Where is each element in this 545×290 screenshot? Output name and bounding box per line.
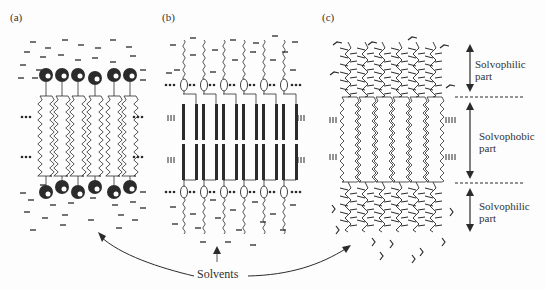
polar-head-icon: [281, 186, 288, 198]
solvents-curve-left: [100, 236, 194, 276]
branch: [367, 69, 374, 70]
branch: [340, 48, 348, 50]
branch: [384, 85, 391, 86]
branch: [384, 193, 391, 194]
solvophilic-chain: [223, 40, 226, 80]
branch: [340, 72, 348, 74]
branch: [350, 209, 357, 210]
branch: [418, 69, 425, 70]
ellipsis-dots: [213, 191, 216, 194]
free-solvent-fragment: [446, 85, 455, 88]
rigid-rod: [295, 104, 298, 140]
branch: [401, 93, 408, 94]
ellipsis-dots: [141, 116, 144, 119]
rigid-rod: [195, 144, 198, 180]
branch: [435, 93, 442, 94]
branch: [367, 85, 374, 86]
branch: [367, 93, 374, 94]
branch: [401, 85, 408, 86]
ellipsis-dots: [291, 191, 294, 194]
ellipsis-dots: [173, 191, 176, 194]
branch: [374, 188, 382, 190]
branch: [435, 85, 442, 86]
branch: [408, 48, 416, 50]
branch: [401, 61, 408, 62]
head-highlight: [130, 187, 135, 192]
branch: [384, 77, 391, 78]
rigid-rod: [215, 144, 218, 180]
branch: [435, 53, 442, 54]
free-solvent-fragment: [408, 37, 417, 40]
branch: [401, 53, 408, 54]
polar-head-icon: [241, 79, 248, 91]
rigid-rod: [202, 144, 205, 180]
polar-head-icon: [261, 186, 268, 198]
ellipsis-dots: [295, 84, 298, 87]
arrow-head-icon: [466, 102, 474, 110]
ellipsis-dots: [29, 116, 32, 119]
head-highlight: [62, 74, 67, 79]
free-solvent-fragment: [380, 252, 383, 260]
head-highlight: [46, 74, 51, 79]
ellipsis-dots: [21, 156, 24, 159]
free-solvent-fragment: [368, 42, 377, 45]
branch: [350, 193, 357, 194]
solvophilic-chain: [183, 40, 186, 80]
solvophilic-chain: [283, 198, 286, 234]
polar-head-icon: [181, 186, 188, 198]
head-group-icon: [71, 185, 85, 199]
solvophilic-chain: [203, 40, 206, 80]
ellipsis-dots: [269, 191, 272, 194]
polar-head-icon: [241, 186, 248, 198]
branch: [391, 212, 399, 214]
ellipsis-dots: [137, 156, 140, 159]
branch: [384, 69, 391, 70]
ellipsis-dots: [133, 116, 136, 119]
rigid-rod: [242, 104, 245, 140]
polar-head-icon: [261, 79, 268, 91]
ellipsis-dots: [133, 156, 136, 159]
branch: [384, 217, 391, 218]
free-solvent-fragment: [390, 240, 393, 248]
rigid-rod: [195, 104, 198, 140]
polar-head-icon: [221, 186, 228, 198]
alkyl-chain: [87, 96, 91, 176]
ellipsis-dots: [209, 84, 212, 87]
solvophilic-chain: [203, 198, 206, 234]
branch: [401, 201, 408, 202]
branch: [367, 217, 374, 218]
branch: [401, 77, 408, 78]
ellipsis-dots: [299, 84, 302, 87]
ellipsis-dots: [273, 191, 276, 194]
ellipsis-dots: [253, 84, 256, 87]
branch: [367, 209, 374, 210]
rigid-rod: [282, 144, 285, 180]
branch: [350, 201, 357, 202]
branch: [374, 212, 382, 214]
free-solvent-fragment: [412, 255, 415, 263]
alkyl-chain: [340, 97, 344, 182]
ellipsis-dots: [189, 84, 192, 87]
branch: [384, 209, 391, 210]
rigid-rod: [235, 144, 238, 180]
head-highlight: [95, 77, 100, 82]
branch: [367, 61, 374, 62]
polar-head-icon: [201, 186, 208, 198]
branch: [425, 188, 433, 190]
branch: [418, 225, 425, 226]
branch: [401, 225, 408, 226]
solvophilic-chain: [223, 198, 226, 234]
ellipsis-dots: [213, 84, 216, 87]
branch: [350, 225, 357, 226]
ellipsis-dots: [141, 156, 144, 159]
ellipsis-dots: [233, 191, 236, 194]
branch: [401, 193, 408, 194]
head-highlight: [46, 192, 51, 197]
branch: [357, 188, 365, 190]
branch: [367, 53, 374, 54]
rigid-rod: [235, 104, 238, 140]
ellipsis-dots: [249, 191, 252, 194]
branch: [408, 188, 416, 190]
head-group-icon: [39, 185, 53, 199]
branch: [435, 209, 442, 210]
